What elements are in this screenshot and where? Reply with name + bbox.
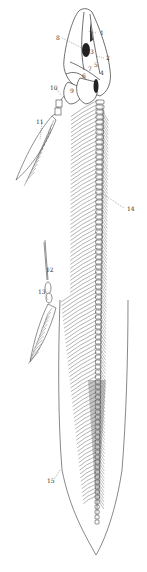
label-15: 15 xyxy=(47,477,55,484)
label-3: 3 xyxy=(90,48,94,55)
label-6: 6 xyxy=(82,72,86,79)
label-11: 11 xyxy=(36,118,44,125)
label-5: 5 xyxy=(94,61,98,68)
label-13: 13 xyxy=(38,288,46,295)
label-4: 4 xyxy=(100,69,104,76)
label-8: 8 xyxy=(56,34,60,41)
label-2: 2 xyxy=(106,54,110,61)
label-7: 7 xyxy=(88,65,92,72)
gill-dark xyxy=(94,79,99,93)
label-9: 9 xyxy=(70,87,74,94)
label-10: 10 xyxy=(50,84,58,91)
label-14: 14 xyxy=(127,205,135,212)
label-1: 1 xyxy=(100,29,104,36)
orbit-dark xyxy=(82,43,90,57)
fish-skeleton-illustration: 1 2 3 4 5 6 7 8 9 10 11 12 13 14 15 xyxy=(0,0,147,572)
label-12: 12 xyxy=(46,266,54,273)
